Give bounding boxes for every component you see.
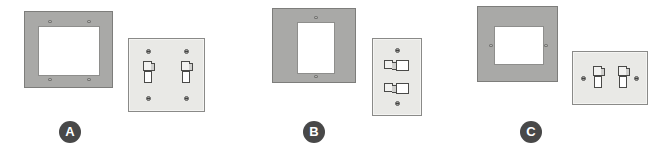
toggle-lever <box>396 83 409 94</box>
screw-icon <box>146 49 151 54</box>
screw-icon <box>634 76 639 81</box>
cover-plate-a <box>128 38 205 112</box>
panel-label-a: A <box>59 121 81 143</box>
screw-hole-icon <box>87 20 91 23</box>
screw-icon <box>395 101 400 106</box>
screw-icon <box>395 48 400 53</box>
panel-label-b: B <box>303 121 325 143</box>
toggle-lever <box>396 60 409 71</box>
wall-plate-options-figure: A B <box>0 0 666 148</box>
cover-plate-c <box>572 51 648 105</box>
mounting-plate-opening-a <box>38 26 100 76</box>
mounting-plate-opening-b <box>297 22 335 74</box>
toggle-switch-icon[interactable] <box>142 61 155 85</box>
panel-b: B <box>222 0 444 148</box>
panel-c: C <box>444 0 666 148</box>
screw-hole-icon <box>48 20 52 23</box>
toggle-side-face <box>626 68 630 76</box>
toggle-switch-icon[interactable] <box>617 66 630 90</box>
toggle-lever <box>619 76 627 88</box>
mounting-plate-b <box>272 8 356 83</box>
panel-a: A <box>0 0 222 148</box>
toggle-side-face <box>151 63 155 71</box>
screw-icon <box>581 76 586 81</box>
screw-icon <box>146 96 151 101</box>
cover-plate-b <box>372 38 422 116</box>
toggle-switch-icon[interactable] <box>592 66 605 90</box>
screw-hole-icon <box>314 16 318 19</box>
screw-hole-icon <box>87 78 91 81</box>
screw-hole-icon <box>544 44 548 47</box>
toggle-lever <box>144 71 152 83</box>
mounting-plate-c <box>477 6 558 82</box>
screw-icon <box>184 49 189 54</box>
toggle-lever <box>182 71 190 83</box>
toggle-switch-icon[interactable] <box>384 82 410 96</box>
toggle-side-face <box>601 68 605 76</box>
toggle-side-face <box>189 63 193 71</box>
panel-label-c: C <box>520 121 542 143</box>
toggle-switch-icon[interactable] <box>180 61 193 85</box>
screw-hole-icon <box>48 78 52 81</box>
toggle-switch-icon[interactable] <box>384 59 410 73</box>
screw-icon <box>184 96 189 101</box>
screw-hole-icon <box>489 44 493 47</box>
screw-hole-icon <box>314 75 318 78</box>
mounting-plate-a <box>24 11 113 88</box>
toggle-lever <box>594 76 602 88</box>
mounting-plate-opening-c <box>494 26 544 65</box>
